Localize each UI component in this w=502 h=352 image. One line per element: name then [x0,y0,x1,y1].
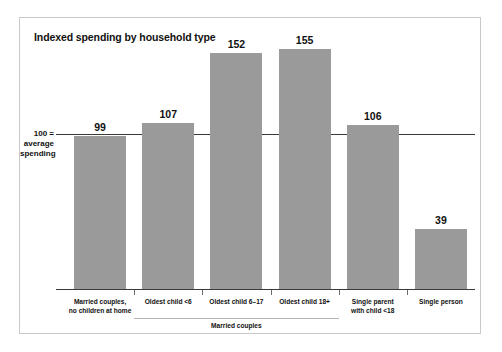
bar-value-label: 106 [337,110,409,122]
bar-value-label: 39 [405,214,477,226]
chart-frame: Indexed spending by household type 100 =… [19,17,481,334]
bar [74,136,126,289]
category-label: Single parentwith child <18 [339,297,407,315]
axis-tick [271,290,272,295]
bar [142,123,194,289]
axis-tick [339,290,340,295]
bar-value-label: 152 [200,38,272,50]
plot-area: 100 =averagespending Married couples 99M… [20,18,480,333]
y-axis-caption: 100 =averagespending [20,129,54,159]
category-label: Oldest child 6–17 [202,297,270,306]
bar-value-label: 155 [269,34,341,46]
category-label: Oldest child 18+ [271,297,339,306]
bar [210,53,262,289]
bar-value-label: 107 [132,108,204,120]
bar [279,49,331,289]
axis-tick [134,290,135,295]
group-bracket-line [134,318,339,319]
bar [347,125,399,289]
group-bracket-label: Married couples [134,322,339,329]
category-label: Single person [407,297,475,306]
x-axis-baseline [56,289,475,290]
category-label: Married couples,no children at home [66,297,134,315]
bar-value-label: 99 [64,121,136,133]
bar [415,229,467,289]
axis-tick [202,290,203,295]
category-label: Oldest child <6 [134,297,202,306]
axis-tick [407,290,408,295]
